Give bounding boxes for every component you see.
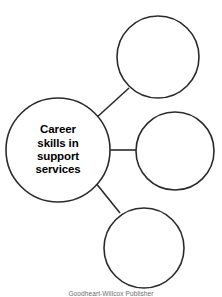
central-node[interactable] (6, 98, 110, 202)
satellite-node-top[interactable] (117, 16, 199, 98)
connector-central-to-top (95, 88, 129, 119)
publisher-credit: Goodheart-Willcox Publisher (0, 290, 222, 297)
connector-central-to-bottom (95, 182, 120, 213)
cluster-diagram-canvas (0, 0, 222, 297)
satellite-node-middle[interactable] (136, 112, 214, 190)
satellite-node-bottom[interactable] (104, 208, 184, 288)
